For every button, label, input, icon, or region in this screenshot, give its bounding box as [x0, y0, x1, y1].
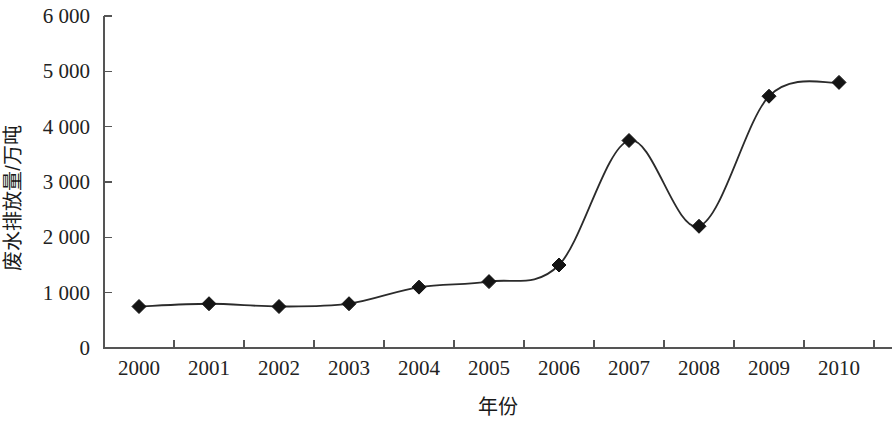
- y-axis-ticks: [104, 16, 112, 293]
- data-point-marker: [412, 280, 426, 294]
- y-axis-tick-labels: 01 0002 0003 0004 0005 0006 000: [43, 4, 90, 360]
- x-axis-tick-label: 2007: [608, 356, 650, 380]
- x-axis-ticks: [174, 340, 874, 348]
- data-point-marker: [132, 300, 146, 314]
- x-axis-tick-label: 2002: [258, 356, 300, 380]
- y-axis-tick-label: 3 000: [43, 170, 90, 194]
- y-axis-tick-label: 2 000: [43, 225, 90, 249]
- x-axis-tick-labels: 2000200120022003200420052006200720082009…: [118, 356, 860, 380]
- chart-axes: [104, 16, 892, 348]
- data-point-marker: [622, 134, 636, 148]
- series-line-wastewater: [139, 81, 839, 306]
- x-axis-tick-label: 2008: [678, 356, 720, 380]
- data-point-marker: [272, 300, 286, 314]
- y-axis-tick-label: 1 000: [43, 281, 90, 305]
- y-axis-tick-label: 0: [80, 336, 91, 360]
- data-point-marker: [482, 275, 496, 289]
- x-axis-tick-label: 2006: [538, 356, 580, 380]
- x-axis-tick-label: 2003: [328, 356, 370, 380]
- data-point-marker: [832, 75, 846, 89]
- series-markers: [132, 75, 846, 313]
- chart-container: 01 0002 0003 0004 0005 0006 000 20002001…: [0, 0, 892, 423]
- line-chart: 01 0002 0003 0004 0005 0006 000 20002001…: [0, 0, 892, 423]
- data-point-marker: [692, 219, 706, 233]
- x-axis-tick-label: 2001: [188, 356, 230, 380]
- x-axis-tick-label: 2009: [748, 356, 790, 380]
- x-axis-tick-label: 2010: [818, 356, 860, 380]
- y-axis-title: 废水排放量/万吨: [2, 125, 24, 271]
- y-axis-tick-label: 4 000: [43, 115, 90, 139]
- x-axis-tick-label: 2004: [398, 356, 441, 380]
- x-axis-tick-label: 2000: [118, 356, 160, 380]
- y-axis-tick-label: 5 000: [43, 59, 90, 83]
- x-axis-title: 年份: [478, 396, 518, 418]
- x-axis-tick-label: 2005: [468, 356, 510, 380]
- y-axis-tick-label: 6 000: [43, 4, 90, 28]
- data-point-marker: [342, 297, 356, 311]
- data-point-marker: [202, 297, 216, 311]
